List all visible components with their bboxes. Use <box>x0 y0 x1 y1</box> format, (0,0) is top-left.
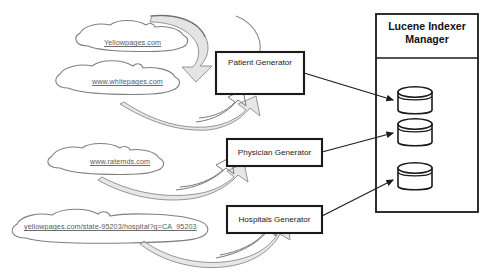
swoosh-arrow-upper <box>150 15 212 82</box>
panel-title-line2: Manager <box>376 33 478 46</box>
curved-arrow-to-patient-generator <box>120 90 260 130</box>
label-source-yellowpages[interactable]: Yellowpages.com <box>104 38 161 47</box>
panel-title-line1: Lucene Indexer <box>376 20 478 33</box>
panel-title: Lucene Indexer Manager <box>376 20 478 46</box>
label-source-whitepages[interactable]: www.whitepages.com <box>92 77 163 86</box>
database-cylinder-3[interactable] <box>398 163 432 190</box>
label-source-ratemds[interactable]: www.ratemds.com <box>90 157 150 166</box>
diagram-canvas: Lucene Indexer Manager Patient Generator… <box>0 0 499 278</box>
label-hospitals-generator: Hospitals Generator <box>227 215 322 224</box>
label-patient-generator: Patient Generator <box>216 58 304 67</box>
database-cylinder-2[interactable] <box>398 119 432 146</box>
label-source-yellowpages-hospital[interactable]: yellowpages.com/state-95203/hospital?g=C… <box>24 222 197 231</box>
database-cylinder-1[interactable] <box>398 87 432 114</box>
label-physician-generator: Physician Generator <box>227 148 322 157</box>
